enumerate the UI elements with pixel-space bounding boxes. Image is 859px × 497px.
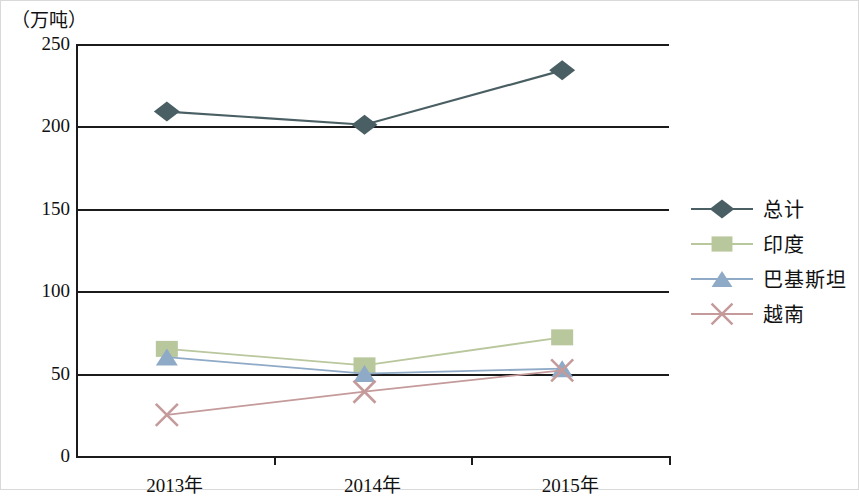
chart-legend: 总计印度巴基斯坦越南 bbox=[691, 191, 856, 331]
series-0 bbox=[154, 60, 575, 134]
plot-area: 050100150200250 2013年2014年2015年 bbox=[76, 44, 669, 456]
legend-swatch-diamond bbox=[691, 196, 753, 222]
diamond-marker bbox=[549, 60, 575, 80]
square-marker bbox=[551, 329, 573, 345]
x-tick-mark bbox=[669, 456, 671, 465]
y-axis-unit-label: （万吨） bbox=[11, 5, 87, 32]
y-tick-label-250: 250 bbox=[10, 33, 76, 55]
square-marker bbox=[712, 236, 733, 251]
legend-label-0: 总计 bbox=[753, 194, 805, 223]
series-data-layer bbox=[76, 44, 669, 456]
legend-swatch-triangle bbox=[691, 266, 753, 292]
y-tick-label-200: 200 bbox=[10, 115, 76, 137]
x-tick-label-0: 2013年 bbox=[146, 470, 203, 497]
legend-swatch-cross bbox=[691, 301, 753, 327]
legend-swatch-square bbox=[691, 231, 753, 257]
y-tick-label-100: 100 bbox=[10, 280, 76, 302]
legend-item-0[interactable]: 总计 bbox=[691, 191, 856, 226]
legend-item-1[interactable]: 印度 bbox=[691, 226, 856, 261]
x-tick-label-2: 2015年 bbox=[542, 470, 599, 497]
legend-item-2[interactable]: 巴基斯坦 bbox=[691, 261, 856, 296]
y-tick-label-150: 150 bbox=[10, 198, 76, 220]
legend-label-3: 越南 bbox=[753, 299, 805, 328]
x-tick-label-1: 2014年 bbox=[344, 470, 401, 497]
gridline-0 bbox=[76, 456, 669, 458]
legend-item-3[interactable]: 越南 bbox=[691, 296, 856, 331]
diamond-marker bbox=[352, 115, 378, 135]
x-tick-mark bbox=[471, 456, 473, 465]
diamond-marker bbox=[710, 199, 735, 218]
diamond-marker bbox=[154, 102, 180, 122]
y-tick-label-50: 50 bbox=[10, 363, 76, 385]
legend-label-1: 印度 bbox=[753, 229, 805, 258]
x-tick-mark bbox=[274, 456, 276, 465]
legend-label-2: 巴基斯坦 bbox=[753, 264, 847, 293]
y-tick-label-0: 0 bbox=[10, 445, 76, 467]
